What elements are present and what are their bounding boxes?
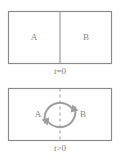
panel-initial-state: A B t=0 [0,0,120,80]
box-initial-state [0,0,120,72]
time-label-initial: t=0 [0,67,120,76]
time-relation-later: >0 [56,143,66,153]
time-label-later: t>0 [0,144,120,153]
two-panel-diffusion-diagram: A B t=0 [0,0,120,162]
region-label-a-initial: A [27,33,41,42]
circulation-arc-upper [45,103,73,124]
box-later-state [0,80,120,152]
panel-later-state: A B t>0 [0,80,120,162]
time-relation-initial: =0 [56,66,66,76]
region-label-b-later: B [76,110,90,119]
region-label-b-initial: B [79,33,93,42]
region-label-a-later: A [31,110,45,119]
circulation-arc-lower [48,107,76,128]
